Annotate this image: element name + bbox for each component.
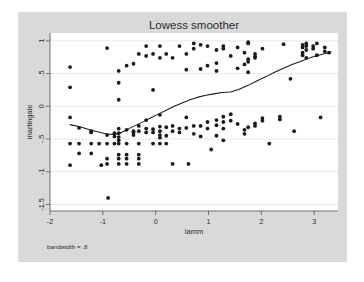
scatter-point <box>221 127 225 131</box>
scatter-point <box>158 125 162 129</box>
scatter-point <box>151 52 155 56</box>
y-tick-label: 0 <box>38 104 47 108</box>
scatter-point <box>68 142 72 146</box>
scatter-point <box>105 157 109 161</box>
scatter-point <box>77 142 81 146</box>
scatter-point <box>164 134 168 138</box>
y-tick-label: .5 <box>38 71 47 77</box>
scatter-point <box>125 142 129 146</box>
scatter-point <box>144 131 148 135</box>
scatter-point <box>144 127 148 131</box>
scatter-point <box>117 127 121 131</box>
scatter-point <box>89 142 93 146</box>
figure-root: 1.50-.5-1-1.5 -2-10123 Lowess smoother l… <box>0 0 364 282</box>
scatter-point <box>221 47 225 51</box>
scatter-point <box>178 44 182 48</box>
scatter-point <box>137 142 141 146</box>
scatter-point <box>267 142 271 146</box>
scatter-point <box>199 67 203 71</box>
x-tick-label: 1 <box>207 217 211 226</box>
scatter-point <box>243 63 247 67</box>
scatter-point <box>158 142 162 146</box>
scatter-point <box>158 56 162 60</box>
scatter-point <box>221 138 225 142</box>
scatter-point <box>151 127 155 131</box>
scatter-point <box>137 52 141 56</box>
scatter-point <box>261 119 265 123</box>
scatter-point <box>137 129 141 133</box>
x-tick-label: 0 <box>154 217 158 226</box>
scatter-point <box>151 88 155 92</box>
scatter-point <box>99 163 103 167</box>
scatter-point <box>164 52 168 56</box>
scatter-point <box>221 115 225 119</box>
scatter-point <box>137 153 141 157</box>
scatter-point <box>187 162 191 166</box>
scatter-point <box>132 133 136 137</box>
scatter-point <box>125 153 129 157</box>
y-tick-label: -1 <box>38 169 47 175</box>
scatter-point <box>158 129 162 133</box>
scatter-point <box>253 124 257 128</box>
scatter-point <box>311 47 315 51</box>
scatter-point <box>158 44 162 48</box>
scatter-point <box>105 142 109 146</box>
scatter-point <box>184 52 188 56</box>
x-tick-label: 3 <box>312 217 316 226</box>
scatter-point <box>215 134 219 138</box>
scatter-point <box>246 60 250 64</box>
scatter-point <box>97 142 101 146</box>
scatter-point <box>117 138 121 142</box>
scatter-point <box>229 54 233 58</box>
scatter-point <box>125 64 129 68</box>
scatter-point <box>278 117 282 121</box>
scatter-point <box>132 62 136 66</box>
scatter-point <box>261 47 265 51</box>
y-tick-label: 1 <box>38 39 47 43</box>
y-tick-label: -.5 <box>38 135 47 143</box>
scatter-point <box>117 153 121 157</box>
scatter-point <box>323 46 327 50</box>
scatter-point <box>184 68 188 72</box>
scatter-point <box>243 128 247 132</box>
x-tick-label: 2 <box>259 217 263 226</box>
scatter-point <box>253 56 257 60</box>
scatter-point <box>184 116 188 120</box>
scatter-point <box>184 126 188 130</box>
scatter-point <box>164 125 168 129</box>
scatter-point <box>199 43 203 47</box>
scatter-point <box>137 162 141 166</box>
scatter-point <box>105 46 109 50</box>
scatter-point <box>117 98 121 102</box>
x-tick-label: -2 <box>47 217 53 226</box>
scatter-point <box>229 119 233 123</box>
y-tick-label: -1.5 <box>38 198 47 210</box>
scatter-point <box>117 135 121 139</box>
bandwidth-note: bandwidth = .8 <box>47 243 88 250</box>
scatter-point <box>301 53 305 57</box>
y-axis-title: martingale <box>25 104 34 139</box>
scatter-point <box>221 120 225 124</box>
scatter-point <box>113 135 117 139</box>
scatter-point <box>125 157 129 161</box>
scatter-point <box>246 70 250 74</box>
scatter-point <box>89 152 93 156</box>
scatter-point <box>215 48 219 52</box>
scatter-point <box>206 120 210 124</box>
scatter-point <box>192 42 196 46</box>
scatter-point <box>243 51 247 55</box>
scatter-point <box>192 47 196 51</box>
scatter-point <box>236 66 240 70</box>
scatter-point <box>68 65 72 69</box>
scatter-point <box>215 61 219 65</box>
scatter-point <box>215 123 219 127</box>
scatter-point <box>171 162 175 166</box>
scatter-point <box>171 124 175 128</box>
x-tick-label: -1 <box>100 217 106 226</box>
scatter-point <box>137 157 141 161</box>
scatter-point <box>236 122 240 126</box>
chart-title: Lowess smoother <box>149 19 239 31</box>
scatter-point <box>229 112 233 116</box>
scatter-point <box>199 135 203 139</box>
scatter-point <box>206 64 210 68</box>
